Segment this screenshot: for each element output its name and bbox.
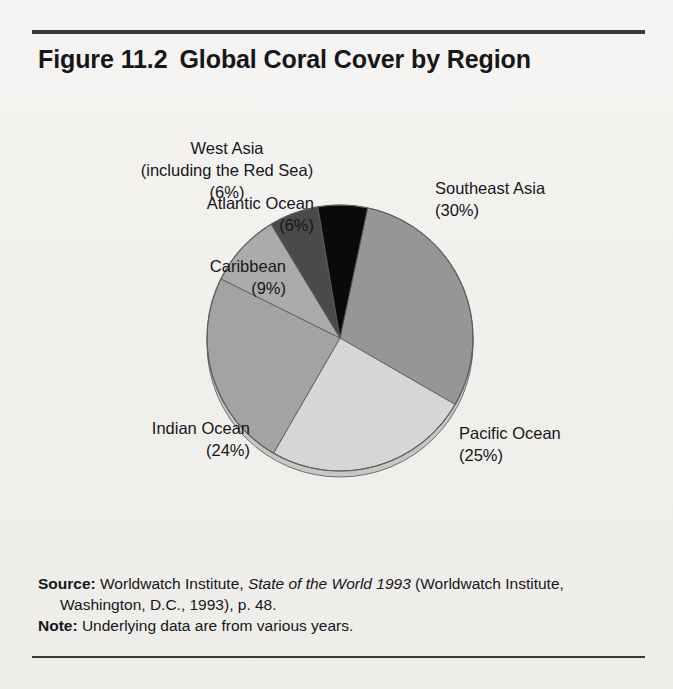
slice-label-southeast-asia-line1: Southeast Asia [435, 179, 545, 197]
slice-label-west-asia-line1: West Asia [190, 139, 263, 157]
slice-label-pacific-ocean-line1: Pacific Ocean [459, 424, 561, 442]
figure-number: Figure 11.2 [38, 45, 168, 73]
slice-label-west-asia-line2: (including the Red Sea) [141, 161, 313, 179]
slice-label-southeast-asia: Southeast Asia (30%) [435, 178, 545, 222]
figure-title: Figure 11.2Global Coral Cover by Region [38, 44, 638, 76]
slice-label-indian-ocean: Indian Ocean (24%) [60, 418, 250, 462]
source-label: Source: [38, 575, 96, 592]
figure-note: Note: Underlying data are from various y… [38, 615, 638, 636]
bottom-rule [32, 656, 645, 658]
note-label: Note: [38, 617, 78, 634]
figure-page: Figure 11.2Global Coral Cover by Region … [0, 0, 673, 689]
slice-label-pacific-ocean: Pacific Ocean (25%) [459, 423, 561, 467]
figure-source: Source: Worldwatch Institute, State of t… [38, 573, 638, 615]
slice-value-southeast-asia: (30%) [435, 200, 545, 222]
slice-value-atlantic-ocean: (6%) [86, 215, 314, 237]
figure-footer: Source: Worldwatch Institute, State of t… [38, 573, 638, 636]
slice-value-indian-ocean: (24%) [60, 440, 250, 462]
slice-value-caribbean: (9%) [86, 278, 286, 300]
pie-chart: Southeast Asia (30%)Pacific Ocean (25%)I… [0, 118, 673, 568]
slice-label-caribbean: Caribbean (9%) [86, 256, 286, 300]
note-text: Underlying data are from various years. [78, 617, 354, 634]
slice-label-atlantic-ocean: Atlantic Ocean (6%) [86, 193, 314, 237]
top-rule [32, 30, 645, 34]
slice-value-pacific-ocean: (25%) [459, 445, 561, 467]
source-title-italic: State of the World 1993 [248, 575, 411, 592]
slice-label-atlantic-ocean-line1: Atlantic Ocean [207, 194, 314, 212]
figure-title-text: Global Coral Cover by Region [180, 45, 531, 73]
source-text-a: Worldwatch Institute, [96, 575, 248, 592]
slice-label-indian-ocean-line1: Indian Ocean [152, 419, 250, 437]
slice-label-caribbean-line1: Caribbean [210, 257, 286, 275]
